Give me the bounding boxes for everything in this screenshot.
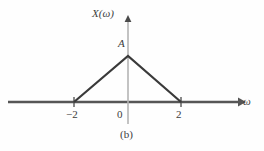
figure-caption: (b) <box>120 129 133 140</box>
figure-container: X(ω) ω A −2 0 2 (b) <box>0 0 264 151</box>
x-tick-label-pos2: 2 <box>176 109 182 120</box>
x-tick-label-neg2: −2 <box>66 109 78 120</box>
peak-amplitude-label: A <box>118 38 125 49</box>
x-tick-label-zero: 0 <box>117 109 123 120</box>
y-axis-label: X(ω) <box>92 8 114 19</box>
x-axis-label: ω <box>243 96 251 107</box>
y-axis-arrowhead <box>125 15 132 22</box>
